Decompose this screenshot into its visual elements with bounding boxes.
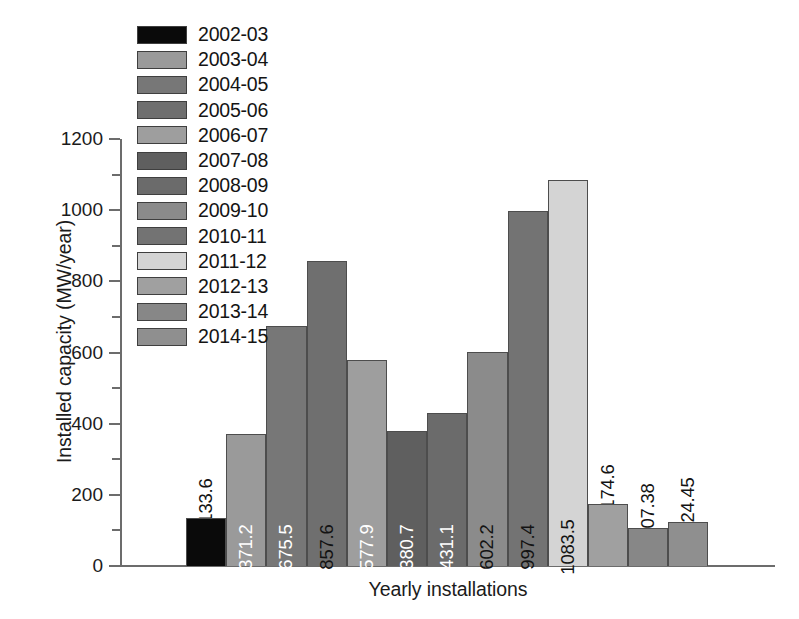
legend-item[interactable]: 2006-07 xyxy=(137,123,268,148)
bar-slot[interactable]: 431.1 xyxy=(427,139,467,566)
bar[interactable]: 675.5 xyxy=(266,326,306,566)
bar-value-label: 857.6 xyxy=(316,524,338,569)
bar[interactable]: 857.6 xyxy=(307,261,347,566)
legend-item[interactable]: 2005-06 xyxy=(137,98,268,123)
bar-value-label: 174.6 xyxy=(597,464,619,509)
legend-swatch xyxy=(137,126,187,144)
y-tick-label: 800 xyxy=(0,270,103,292)
bar[interactable]: 997.4 xyxy=(508,211,548,566)
legend-label: 2002-03 xyxy=(198,23,268,46)
legend-label: 2005-06 xyxy=(198,99,268,122)
legend-swatch xyxy=(137,177,187,195)
legend-item[interactable]: 2002-03 xyxy=(137,22,268,47)
legend-swatch xyxy=(137,101,187,119)
legend-swatch xyxy=(137,277,187,295)
bar-value-label: 380.7 xyxy=(396,524,418,569)
y-tick-label: 400 xyxy=(0,413,103,435)
legend-swatch xyxy=(137,303,187,321)
legend-swatch xyxy=(137,252,187,270)
legend-item[interactable]: 2003-04 xyxy=(137,47,268,72)
bar-value-label: 577.9 xyxy=(356,524,378,569)
bar[interactable]: 431.1 xyxy=(427,413,467,566)
bar-value-label: 675.5 xyxy=(275,524,297,569)
legend-item[interactable]: 2012-13 xyxy=(137,274,268,299)
bar-slot[interactable]: 577.9 xyxy=(347,139,387,566)
legend-label: 2009-10 xyxy=(198,199,268,222)
bar-slot[interactable]: 675.5 xyxy=(266,139,306,566)
legend-swatch xyxy=(137,328,187,346)
y-tick-major xyxy=(109,209,120,211)
bar-value-label: 431.1 xyxy=(436,524,458,569)
y-tick-label: 1000 xyxy=(0,199,103,221)
bar[interactable] xyxy=(186,518,226,566)
legend-label: 2010-11 xyxy=(198,225,267,248)
legend-label: 2013-14 xyxy=(198,300,268,323)
bar[interactable] xyxy=(668,522,708,566)
bar-slot[interactable]: 602.2 xyxy=(467,139,507,566)
legend-label: 2014-15 xyxy=(198,325,268,348)
legend-label: 2006-07 xyxy=(198,124,268,147)
legend-swatch xyxy=(137,76,187,94)
bar-slot[interactable]: 1083.5 xyxy=(548,139,588,566)
x-axis-title: Yearly installations xyxy=(121,578,775,601)
legend-item[interactable]: 2009-10 xyxy=(137,198,268,223)
legend-label: 2003-04 xyxy=(198,48,268,71)
y-tick-minor xyxy=(112,387,120,389)
y-tick-label: 200 xyxy=(0,484,103,506)
legend-item[interactable]: 2007-08 xyxy=(137,148,268,173)
legend-label: 2012-13 xyxy=(198,275,268,298)
y-tick-minor xyxy=(112,529,120,531)
bar-slot[interactable]: 174.6 xyxy=(588,139,628,566)
y-tick-label: 0 xyxy=(0,555,103,577)
legend-label: 2011-12 xyxy=(198,250,267,273)
y-tick-label: 600 xyxy=(0,342,103,364)
legend-item[interactable]: 2011-12 xyxy=(137,249,268,274)
legend-item[interactable]: 2004-05 xyxy=(137,72,268,97)
y-tick-minor xyxy=(112,316,120,318)
y-tick-major xyxy=(109,423,120,425)
bar[interactable] xyxy=(588,504,628,566)
y-tick-minor xyxy=(112,458,120,460)
bar[interactable]: 577.9 xyxy=(347,360,387,566)
y-tick-label: 1200 xyxy=(0,128,103,150)
legend-swatch xyxy=(137,152,187,170)
bar-slot[interactable]: 107.38 xyxy=(628,139,668,566)
bar-slot[interactable]: 857.6 xyxy=(307,139,347,566)
y-tick-major xyxy=(109,494,120,496)
bar[interactable] xyxy=(628,528,668,566)
legend: 2002-032003-042004-052005-062006-072007-… xyxy=(137,22,268,349)
legend-label: 2007-08 xyxy=(198,149,268,172)
bar[interactable]: 602.2 xyxy=(467,352,507,566)
legend-item[interactable]: 2010-11 xyxy=(137,224,268,249)
legend-swatch xyxy=(137,51,187,69)
y-tick-major xyxy=(109,352,120,354)
y-tick-minor xyxy=(112,174,120,176)
bar[interactable]: 1083.5 xyxy=(548,180,588,566)
legend-label: 2004-05 xyxy=(198,73,268,96)
bar-value-label: 371.2 xyxy=(235,524,257,569)
bar-slot[interactable]: 380.7 xyxy=(387,139,427,566)
bar-value-label: 602.2 xyxy=(476,524,498,569)
bar-slot[interactable]: 124.45 xyxy=(668,139,708,566)
y-tick-major xyxy=(109,565,120,567)
bar-chart: Installed capacity (MW/year) 02004006008… xyxy=(0,0,799,619)
legend-swatch xyxy=(137,227,187,245)
legend-item[interactable]: 2014-15 xyxy=(137,324,268,349)
bar-value-label: 133.6 xyxy=(195,479,217,524)
bar[interactable]: 380.7 xyxy=(387,431,427,566)
y-tick-minor xyxy=(112,245,120,247)
bar-slot[interactable]: 997.4 xyxy=(508,139,548,566)
bar-value-label: 997.4 xyxy=(517,524,539,569)
legend-item[interactable]: 2013-14 xyxy=(137,299,268,324)
bar[interactable]: 371.2 xyxy=(226,434,266,566)
legend-label: 2008-09 xyxy=(198,174,268,197)
y-tick-major xyxy=(109,138,120,140)
legend-item[interactable]: 2008-09 xyxy=(137,173,268,198)
y-tick-major xyxy=(109,280,120,282)
legend-swatch xyxy=(137,202,187,220)
legend-swatch xyxy=(137,26,187,44)
